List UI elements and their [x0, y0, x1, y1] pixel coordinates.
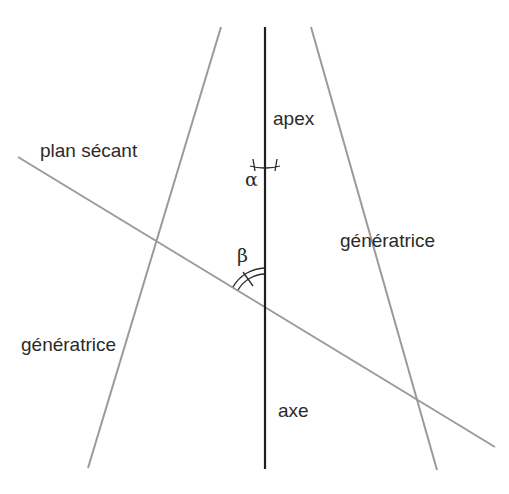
generatrice-right-label: génératrice — [340, 231, 435, 250]
alpha-tick-right — [275, 159, 277, 171]
beta-label: β — [237, 246, 248, 265]
apex-label: apex — [273, 109, 314, 128]
beta-arc-outer — [233, 268, 265, 287]
axe-label: axe — [278, 401, 309, 420]
plan-secant-label: plan sécant — [40, 141, 137, 160]
beta-tick — [243, 272, 253, 286]
generatrice-left-label: génératrice — [21, 335, 116, 354]
alpha-label: α — [245, 170, 258, 189]
plan-secant-line — [18, 157, 495, 447]
generatrice-left-line — [88, 27, 221, 468]
cone-section-diagram: apex plan sécant α β génératrice générat… — [0, 0, 509, 494]
